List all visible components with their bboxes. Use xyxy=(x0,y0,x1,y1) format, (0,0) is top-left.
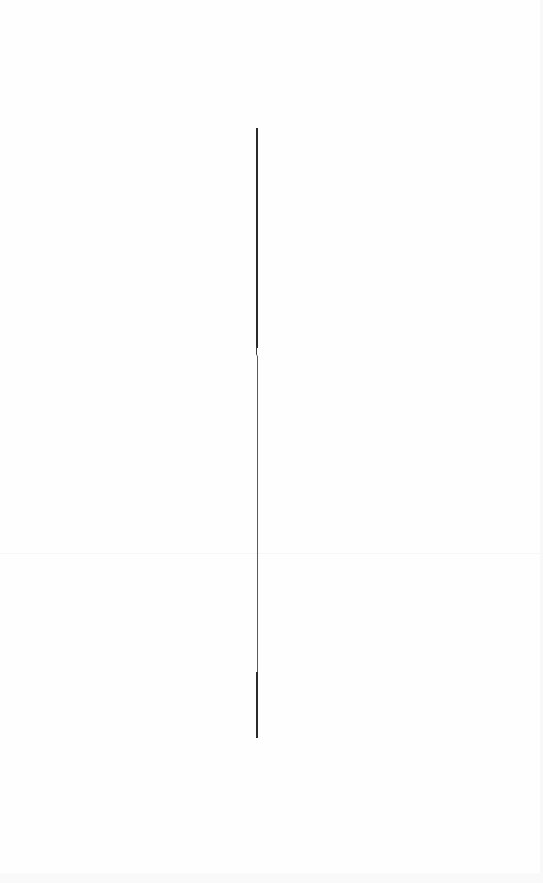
vertical-divider-bottom xyxy=(256,672,258,738)
horizontal-seam xyxy=(0,553,543,554)
blank-page-canvas xyxy=(0,0,543,883)
vertical-divider-kink xyxy=(256,346,260,356)
vertical-divider-middle xyxy=(257,356,258,676)
vertical-divider-top xyxy=(256,128,258,348)
bottom-edge-band xyxy=(0,873,543,883)
